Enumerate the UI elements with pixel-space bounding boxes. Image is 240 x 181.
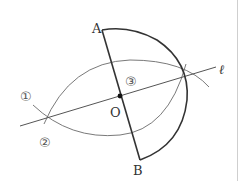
right-edge-border: [237, 0, 238, 181]
point-o-dot: [118, 94, 123, 99]
point-o-label: O: [110, 105, 121, 120]
line-l-label: ℓ: [219, 62, 225, 77]
construction-arc-lower: [33, 64, 186, 136]
step-label-2: ②: [39, 135, 51, 150]
step-label-1: ①: [20, 89, 32, 104]
point-b-label: B: [133, 163, 143, 178]
geometry-figure: A B O ℓ ① ② ③: [0, 0, 240, 181]
step-label-3: ③: [125, 74, 137, 89]
point-a-label: A: [91, 21, 102, 36]
